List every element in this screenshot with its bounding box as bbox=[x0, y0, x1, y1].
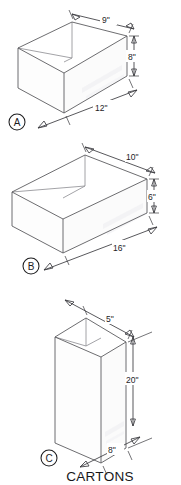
carton-a-dim-height: 8" bbox=[126, 36, 143, 76]
carton-b-dim-height: 6" bbox=[147, 179, 164, 213]
carton-b-label: B bbox=[23, 258, 39, 274]
carton-c-depth-value: 5" bbox=[106, 314, 114, 324]
carton-a-height-value: 8" bbox=[128, 52, 136, 62]
carton-b-width-value: 16" bbox=[113, 243, 125, 253]
carton-a-label-text: A bbox=[14, 117, 21, 128]
carton-c-dim-height: 20" bbox=[125, 332, 152, 448]
carton-a-label: A bbox=[9, 114, 25, 130]
carton-c-height-value: 20" bbox=[126, 375, 138, 385]
cartons-figure: 9" 8" 12" bbox=[0, 0, 181, 485]
carton-c-left-face bbox=[55, 337, 101, 463]
cartons-diagram-svg: 9" 8" 12" bbox=[0, 0, 181, 485]
carton-c-label-text: C bbox=[45, 453, 52, 464]
carton-b-height-value: 6" bbox=[148, 192, 156, 202]
carton-a-width-value: 12" bbox=[95, 103, 107, 113]
figure-caption: CARTONS bbox=[66, 469, 134, 484]
carton-b-label-text: B bbox=[28, 261, 35, 272]
carton-b-depth-value: 10" bbox=[126, 152, 138, 162]
carton-c-width-value: 8" bbox=[108, 445, 116, 455]
carton-c-group: 5" 20" 8" bbox=[41, 300, 152, 475]
carton-c-label: C bbox=[41, 450, 57, 466]
carton-b-group: 10" 6" 16" bbox=[12, 143, 164, 274]
carton-a-depth-value: 9" bbox=[102, 15, 110, 25]
carton-a-group: 9" 8" 12" bbox=[9, 10, 143, 130]
